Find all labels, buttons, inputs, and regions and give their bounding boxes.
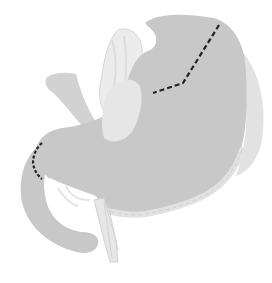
stomach-diagram-svg	[0, 0, 272, 283]
stomach-illustration	[0, 0, 272, 283]
